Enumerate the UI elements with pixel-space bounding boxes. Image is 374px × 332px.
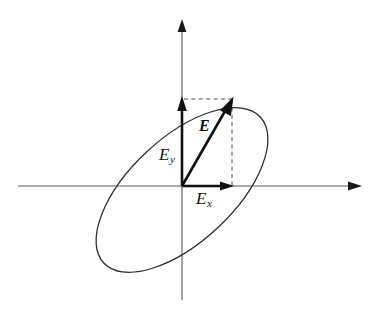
ex-label-symbol: E: [196, 189, 206, 208]
e-vector-group: [182, 97, 234, 187]
ey-label-symbol: E: [159, 145, 169, 164]
ey-vector-arrowhead-icon: [177, 96, 187, 111]
x-axis-arrowhead-icon: [348, 182, 362, 191]
figure-canvas: [0, 0, 374, 332]
ey-vector-group: [177, 96, 187, 186]
ey-label-subscript: y: [170, 153, 175, 165]
ex-label-subscript: x: [207, 197, 212, 209]
e-vector-label: E: [199, 118, 210, 134]
y-axis-arrowhead-icon: [178, 19, 187, 32]
polarization-figure: Ey Ex E: [0, 0, 374, 332]
figure-caption: [0, 316, 374, 332]
axes-group: [18, 19, 362, 300]
ey-label: Ey: [159, 146, 174, 163]
ex-label: Ex: [196, 190, 211, 207]
